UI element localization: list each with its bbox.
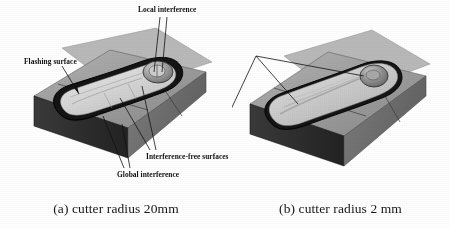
annotation-flashing-surface: Flashing surface bbox=[24, 57, 77, 66]
annotation-local-interference: Local interference bbox=[138, 5, 196, 14]
figure-panel-b: Interference regions bbox=[232, 0, 449, 196]
panel-a-illustration bbox=[0, 0, 232, 196]
figure-root: Local interference Flashing surface Inte… bbox=[0, 0, 449, 228]
caption-panel-a: (a) cutter radius 20mm bbox=[0, 196, 232, 222]
panel-b-illustration bbox=[232, 0, 449, 196]
annotation-global-interference: Global interference bbox=[117, 170, 179, 179]
caption-panel-b: (b) cutter radius 2 mm bbox=[232, 196, 449, 222]
interference-region-boss-inner bbox=[366, 70, 380, 80]
figure-panel-a: Local interference Flashing surface Inte… bbox=[0, 0, 232, 196]
annotation-interference-free-surfaces: Interference-free surfaces bbox=[146, 152, 229, 161]
